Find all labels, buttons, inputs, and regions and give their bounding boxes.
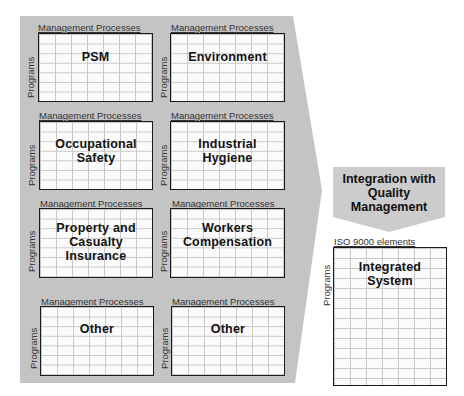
- row-label-other-2: Programs: [160, 328, 170, 369]
- box-title-psm: PSM: [39, 34, 152, 101]
- row-label-industrial-hygiene: Programs: [159, 145, 169, 186]
- program-box-property-casualty: Property and Casualty Insurance: [39, 208, 153, 278]
- program-box-other-1: Other: [40, 306, 154, 376]
- row-label-workers-compensation: Programs: [159, 231, 169, 272]
- box-title-other-2: Other: [172, 307, 284, 375]
- row-label-environment: Programs: [159, 57, 169, 98]
- column-label-integrated-system: ISO 9000 elements: [334, 237, 415, 247]
- program-box-industrial-hygiene: Industrial Hygiene: [170, 121, 285, 190]
- box-title-occupational-safety: Occupational Safety: [40, 122, 152, 189]
- program-box-psm: PSM: [38, 33, 153, 102]
- box-title-integrated-system: Integrated System: [334, 248, 446, 385]
- column-label-environment: Management Processes: [171, 23, 273, 33]
- box-title-property-casualty: Property and Casualty Insurance: [40, 209, 152, 277]
- row-label-property-casualty: Programs: [27, 231, 37, 272]
- column-label-psm: Management Processes: [38, 23, 140, 33]
- program-box-workers-compensation: Workers Compensation: [170, 208, 285, 278]
- diagram-canvas: Management Processes Programs PSM Manage…: [0, 0, 464, 396]
- integrated-system-box: Integrated System: [333, 247, 447, 386]
- program-box-environment: Environment: [170, 33, 285, 102]
- column-label-occupational-safety: Management Processes: [39, 111, 141, 121]
- row-label-integrated-system: Programs: [322, 265, 332, 306]
- box-title-other-1: Other: [41, 307, 153, 375]
- row-label-occupational-safety: Programs: [27, 145, 37, 186]
- box-title-environment: Environment: [171, 34, 284, 101]
- row-label-psm: Programs: [26, 57, 36, 98]
- program-box-occupational-safety: Occupational Safety: [39, 121, 153, 190]
- row-label-other-1: Programs: [29, 328, 39, 369]
- column-label-industrial-hygiene: Management Processes: [171, 111, 273, 121]
- integration-arrow-label: Integration with Quality Management: [333, 172, 445, 214]
- box-title-workers-compensation: Workers Compensation: [171, 209, 284, 277]
- program-box-other-2: Other: [171, 306, 285, 376]
- box-title-industrial-hygiene: Industrial Hygiene: [171, 122, 284, 189]
